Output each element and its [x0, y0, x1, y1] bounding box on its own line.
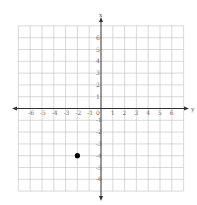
- horizontal-axis-label: y: [190, 105, 195, 113]
- x-tick-label: -2: [75, 109, 81, 116]
- y-tick-label: -1: [96, 116, 102, 123]
- y-tick-label: -2: [96, 128, 102, 135]
- coordinate-plane: -6-5-4-3-2-10123456654321-1-2-3-4-5-6 y …: [0, 0, 197, 205]
- data-points: [75, 153, 80, 158]
- x-tick-label: -6: [28, 109, 34, 116]
- y-tick-label: 5: [96, 46, 100, 53]
- data-point: [75, 153, 80, 158]
- y-tick-label: 4: [96, 57, 100, 64]
- arrow-right-icon: [184, 107, 189, 111]
- x-tick-label: 0: [96, 109, 100, 116]
- x-tick-label: -3: [64, 109, 70, 116]
- y-tick-label: 6: [96, 34, 100, 41]
- y-tick-label: -4: [96, 152, 102, 159]
- y-tick-label: -5: [96, 164, 102, 171]
- x-tick-label: 3: [134, 109, 138, 116]
- y-tick-label: 1: [96, 93, 100, 100]
- y-tick-label: 3: [96, 69, 100, 76]
- x-tick-label: 5: [158, 109, 162, 116]
- y-tick-label: 2: [96, 81, 100, 88]
- arrow-down-icon: [99, 196, 103, 201]
- x-tick-label: -5: [40, 109, 46, 116]
- axes: [12, 17, 189, 201]
- vertical-axis-label: x: [99, 11, 103, 18]
- arrow-left-icon: [12, 107, 17, 111]
- x-tick-label: -1: [87, 109, 93, 116]
- x-tick-label: 4: [146, 109, 150, 116]
- x-tick-label: 1: [111, 109, 115, 116]
- y-tick-label: -3: [96, 140, 102, 147]
- x-tick-label: 6: [170, 109, 174, 116]
- x-tick-label: -4: [52, 109, 58, 116]
- x-tick-label: 2: [123, 109, 127, 116]
- y-tick-label: -6: [96, 175, 102, 182]
